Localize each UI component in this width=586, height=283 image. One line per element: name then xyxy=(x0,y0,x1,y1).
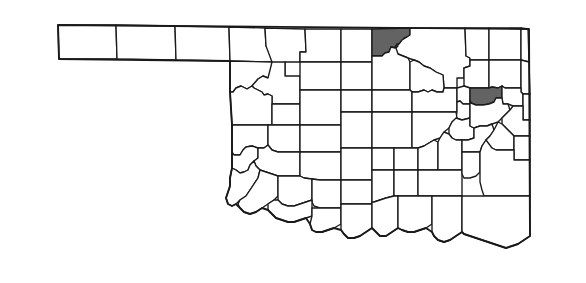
county-lincoln[interactable] xyxy=(372,112,412,148)
county-washington[interactable] xyxy=(465,28,489,60)
county-dewey[interactable] xyxy=(272,104,300,125)
county-canadian[interactable] xyxy=(300,125,341,152)
county-stephens[interactable] xyxy=(312,179,341,208)
county-grady[interactable] xyxy=(341,148,372,180)
county-nowata[interactable] xyxy=(489,28,521,60)
county-atoka[interactable] xyxy=(398,196,432,232)
county-coal-pittsburg[interactable] xyxy=(394,170,418,196)
county-garfield[interactable] xyxy=(341,62,372,90)
county-pottawatomie[interactable] xyxy=(394,148,418,170)
county-leflore-north[interactable] xyxy=(514,136,530,160)
county-cherokee[interactable] xyxy=(502,86,523,106)
county-love-carter[interactable] xyxy=(341,204,372,238)
county-major[interactable] xyxy=(300,62,341,90)
county-caddo[interactable] xyxy=(300,152,341,180)
county-payne[interactable] xyxy=(412,88,457,112)
county-grant[interactable] xyxy=(341,29,372,62)
map-region-red-river-tier xyxy=(268,196,530,248)
county-creek[interactable] xyxy=(456,101,470,120)
county-beaver[interactable] xyxy=(175,26,230,61)
county-kingfisher[interactable] xyxy=(341,90,372,112)
county-oklahoma[interactable] xyxy=(341,112,372,148)
county-cimarron[interactable] xyxy=(58,25,117,59)
county-pittsburg[interactable] xyxy=(418,170,462,196)
map-region-panhandle xyxy=(58,25,230,61)
county-blaine[interactable] xyxy=(300,90,341,125)
county-cleveland[interactable] xyxy=(372,148,394,170)
county-craig[interactable] xyxy=(521,28,529,62)
county-garvin[interactable] xyxy=(341,180,372,204)
county-alfalfa[interactable] xyxy=(300,29,341,62)
county-latimer[interactable] xyxy=(462,152,480,178)
county-logan[interactable] xyxy=(372,90,412,112)
county-custer[interactable] xyxy=(268,125,300,152)
oklahoma-county-map[interactable] xyxy=(0,0,586,283)
county-mayes[interactable] xyxy=(489,60,521,88)
county-mccurtain[interactable] xyxy=(462,196,530,248)
county-texas[interactable] xyxy=(116,25,176,60)
map-figure xyxy=(0,0,586,283)
